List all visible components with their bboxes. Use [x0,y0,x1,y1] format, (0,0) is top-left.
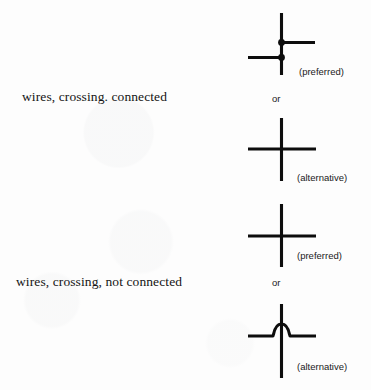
symbol-reference-figure: (preferred) or wires, crossing. connecte… [0,0,371,390]
junction-dot-upper [278,39,285,46]
note-not-connected-alternative: (alternative) [297,361,347,372]
row-label-wires-crossing-not-connected: wires, crossing, not connected [16,274,182,290]
note-connected-alternative: (alternative) [297,172,347,183]
note-connected-preferred: (preferred) [299,66,344,77]
row-label-wires-crossing-connected: wires, crossing. connected [22,89,167,105]
symbol-plain-cross-not-connected-preferred [240,200,330,272]
note-not-connected-preferred: (preferred) [297,250,342,261]
junction-dot-lower [278,54,285,61]
conjunction-connected: or [272,93,280,104]
conjunction-not-connected: or [272,277,280,288]
